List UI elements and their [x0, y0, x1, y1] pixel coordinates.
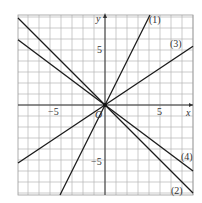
origin-point — [103, 103, 107, 107]
x-tick-5: 5 — [157, 106, 162, 117]
line-4-label: (4) — [181, 151, 193, 163]
y-axis-label: y — [95, 13, 101, 24]
line-3-label: (3) — [170, 38, 182, 50]
line-2-label: (2) — [171, 185, 183, 197]
y-tick-5: 5 — [97, 44, 102, 55]
y-tick-neg5: −5 — [91, 156, 102, 167]
origin-label: O — [95, 109, 102, 120]
y-axis-arrow-icon — [103, 13, 107, 18]
x-axis-label: x — [185, 107, 191, 118]
coordinate-plane: y x O −5 5 5 −5 (1) (3) (4) (2) — [0, 0, 202, 203]
x-tick-neg5: −5 — [48, 106, 59, 117]
line-1-label: (1) — [149, 14, 161, 26]
